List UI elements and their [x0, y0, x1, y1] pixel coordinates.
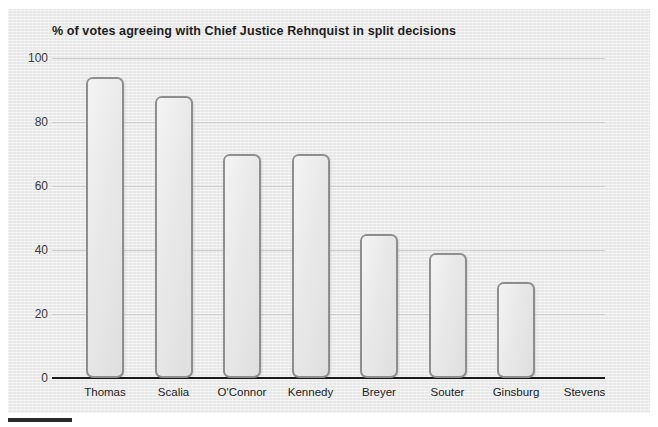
ytick-label-80: 80	[2, 115, 48, 129]
xtick-label-breyer: Breyer	[362, 386, 396, 398]
ytick-label-0: 0	[2, 371, 48, 385]
ytick-label-100: 100	[2, 51, 48, 65]
bar-sheen	[499, 284, 533, 376]
bar-sheen	[362, 236, 396, 376]
bar-o-connor	[223, 154, 261, 378]
ytick-label-60: 60	[2, 179, 48, 193]
xtick-label-thomas: Thomas	[84, 386, 126, 398]
gridline-80	[52, 122, 605, 123]
bar-sheen	[225, 156, 259, 376]
xtick-label-ginsburg: Ginsburg	[493, 386, 540, 398]
bar-kennedy	[292, 154, 330, 378]
bar-souter	[429, 253, 467, 378]
xtick-label-stevens: Stevens	[564, 386, 606, 398]
chart-title: % of votes agreeing with Chief Justice R…	[52, 24, 456, 38]
bar-breyer	[360, 234, 398, 378]
ytick-label-20: 20	[2, 307, 48, 321]
gridline-100	[52, 58, 605, 59]
bar-sheen	[294, 156, 328, 376]
xtick-label-o-connor: O'Connor	[218, 386, 267, 398]
xtick-label-kennedy: Kennedy	[288, 386, 333, 398]
xtick-label-scalia: Scalia	[158, 386, 189, 398]
chart-plot-area: % of votes agreeing with Chief Justice R…	[0, 0, 658, 427]
bar-thomas	[86, 77, 124, 378]
xtick-label-souter: Souter	[431, 386, 465, 398]
bar-ginsburg	[497, 282, 535, 378]
chart-figure: % of votes agreeing with Chief Justice R…	[0, 0, 658, 427]
bar-sheen	[88, 79, 122, 376]
bar-sheen	[431, 255, 465, 376]
bar-scalia	[155, 96, 193, 378]
bottom-rule	[8, 418, 72, 422]
bar-sheen	[157, 98, 191, 376]
ytick-label-40: 40	[2, 243, 48, 257]
